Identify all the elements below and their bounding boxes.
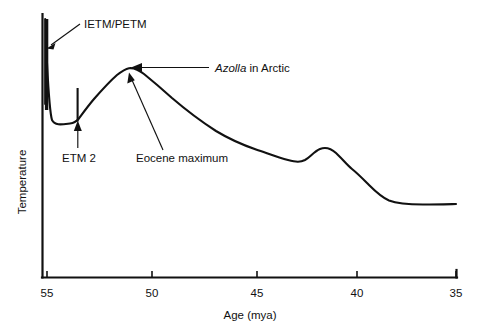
eocene-maximum-label: Eocene maximum [136, 152, 228, 164]
azolla-rest-text: in Arctic [246, 62, 290, 74]
x-tick-label-45: 45 [251, 287, 264, 299]
x-tick-label-50: 50 [146, 287, 159, 299]
azolla-label: Azolla in Arctic [214, 62, 290, 74]
x-tick-label-35: 35 [450, 287, 463, 299]
temperature-vs-age-chart: 55 50 45 40 35 Age (mya) Temperature IET… [0, 0, 478, 334]
chart-background [0, 0, 478, 334]
x-axis-title: Age (mya) [223, 309, 276, 321]
y-axis-title: Temperature [16, 150, 28, 215]
x-tick-label-40: 40 [351, 287, 364, 299]
etm2-label: ETM 2 [62, 152, 96, 164]
x-tick-label-55: 55 [41, 287, 54, 299]
chart-svg: 55 50 45 40 35 Age (mya) Temperature IET… [0, 0, 478, 334]
ietm-petm-label: IETM/PETM [84, 18, 147, 30]
azolla-genus-text: Azolla [214, 62, 246, 74]
